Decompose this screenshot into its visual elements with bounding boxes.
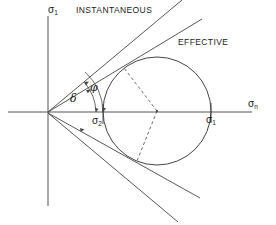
instantaneous-label: INSTANTANEOUS	[76, 6, 152, 15]
sigma-2-label: σ2	[92, 116, 102, 126]
axis-label-sigma-n: σn	[248, 99, 258, 109]
delta-angle-label: δ	[70, 93, 77, 104]
instantaneous-envelope-upper	[48, 0, 182, 112]
radius-to-lower-tangent	[137, 111, 157, 161]
lower-line-arrowhead	[80, 128, 85, 132]
axis-label-sigma-1-vertical: σ1	[48, 5, 58, 15]
instantaneous-envelope-lower	[48, 113, 178, 222]
radius-to-upper-tangent	[124, 68, 157, 111]
sigma-1-circle-label: σ1	[206, 115, 216, 125]
effective-label: EFFECTIVE	[178, 38, 228, 47]
mohr-circle-figure: σ1 INSTANTANEOUS EFFECTIVE δ φ σ2 σ1 σn	[0, 0, 276, 225]
delta-arc-arrowhead	[95, 107, 99, 112]
effective-envelope-lower	[48, 113, 200, 198]
figure-canvas	[0, 0, 276, 225]
phi-angle-label: φ	[90, 82, 98, 93]
